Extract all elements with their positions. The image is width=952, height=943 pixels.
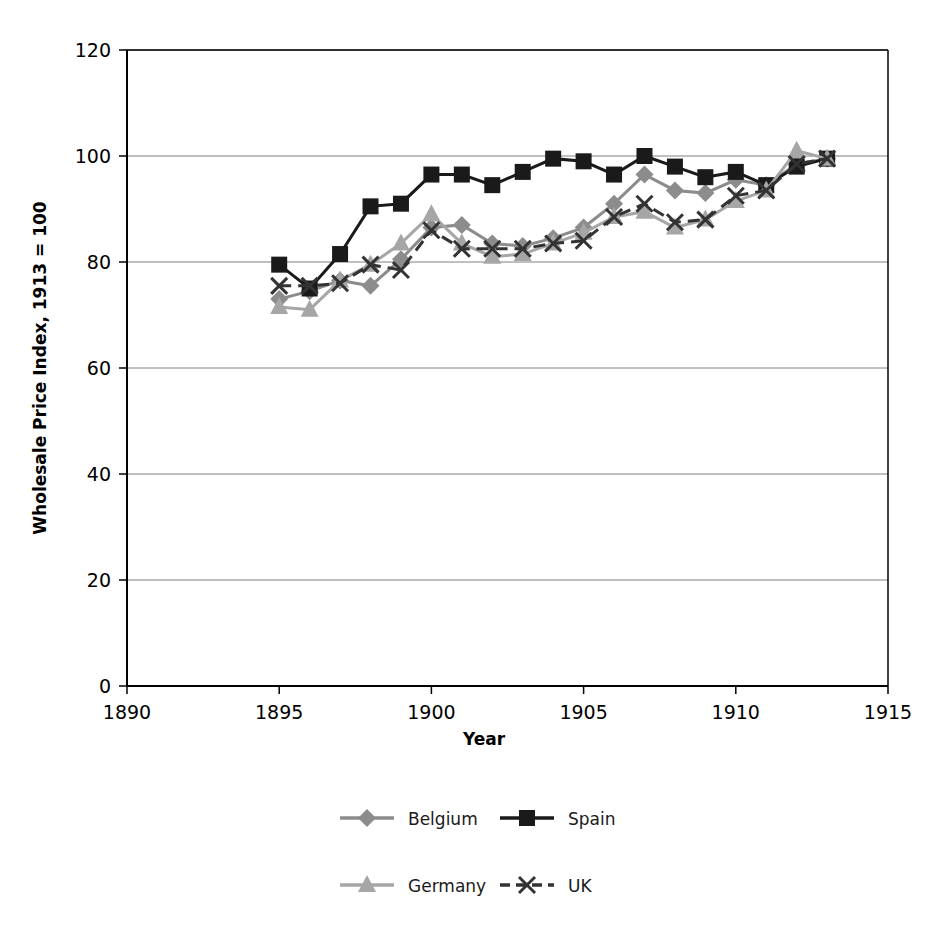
data-point-square-icon	[332, 246, 348, 262]
y-tick-label: 100	[75, 145, 111, 167]
x-tick-label: 1910	[712, 701, 760, 723]
data-point-square-icon	[789, 159, 805, 175]
legend-label: Germany	[408, 876, 486, 896]
x-axis-title: Year	[462, 729, 506, 749]
data-point-diamond-icon	[696, 184, 714, 202]
data-point-square-icon	[271, 257, 287, 273]
data-point-diamond-icon	[666, 181, 684, 199]
data-point-square-icon	[697, 169, 713, 185]
legend-item-uk[interactable]: UK	[500, 876, 592, 896]
data-point-square-icon	[393, 196, 409, 212]
legend-item-germany[interactable]: Germany	[340, 875, 486, 896]
x-tick-label: 1905	[559, 701, 607, 723]
data-series-layer	[270, 141, 836, 317]
series-uk	[271, 151, 835, 294]
data-point-square-icon	[363, 198, 379, 214]
data-point-square-icon	[454, 167, 470, 183]
legend-item-spain[interactable]: Spain	[500, 809, 616, 829]
y-tick-label: 0	[99, 675, 111, 697]
legend-label: UK	[568, 876, 592, 896]
data-point-diamond-icon	[358, 809, 376, 827]
data-point-square-icon	[302, 281, 318, 297]
series-line	[279, 159, 827, 299]
x-tick-label: 1915	[864, 701, 912, 723]
data-point-square-icon	[576, 153, 592, 169]
data-point-square-icon	[667, 159, 683, 175]
y-tick-label: 80	[87, 251, 111, 273]
data-point-square-icon	[636, 148, 652, 164]
data-point-diamond-icon	[453, 216, 471, 234]
line-chart: 020406080100120 189018951900190519101915…	[0, 0, 952, 943]
x-tick-label: 1895	[255, 701, 303, 723]
data-point-square-icon	[545, 151, 561, 167]
data-point-square-icon	[423, 167, 439, 183]
y-tick-label: 120	[75, 39, 111, 61]
x-axis-ticks: 189018951900190519101915	[103, 686, 912, 723]
data-point-square-icon	[606, 167, 622, 183]
data-point-square-icon	[519, 810, 535, 826]
x-tick-label: 1900	[407, 701, 455, 723]
data-point-square-icon	[728, 164, 744, 180]
data-point-square-icon	[515, 164, 531, 180]
data-point-square-icon	[484, 177, 500, 193]
data-point-triangle-icon	[422, 204, 440, 221]
y-axis-title: Wholesale Price Index, 1913 = 100	[30, 201, 50, 534]
gridlines	[127, 50, 888, 580]
chart-legend: BelgiumSpainGermanyUK	[340, 809, 616, 896]
legend-item-belgium[interactable]: Belgium	[340, 809, 478, 829]
y-tick-label: 20	[87, 569, 111, 591]
data-point-triangle-icon	[788, 141, 806, 158]
legend-label: Belgium	[408, 809, 478, 829]
x-tick-label: 1890	[103, 701, 151, 723]
legend-label: Spain	[568, 809, 616, 829]
y-tick-label: 60	[87, 357, 111, 379]
y-axis-ticks: 020406080100120	[75, 39, 127, 697]
y-tick-label: 40	[87, 463, 111, 485]
chart-container: 020406080100120 189018951900190519101915…	[0, 0, 952, 943]
